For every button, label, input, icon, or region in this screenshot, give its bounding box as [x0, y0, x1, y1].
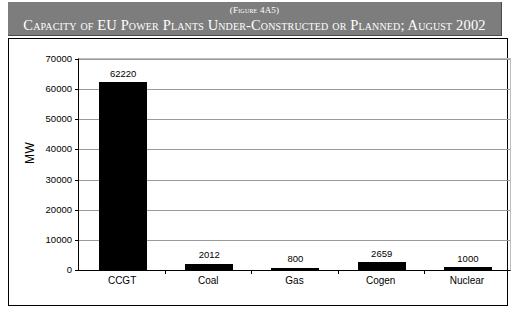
y-axis-tick-label: 0: [67, 265, 72, 275]
chart-title: Capacity of EU Power Plants Under-Constr…: [8, 16, 501, 34]
y-axis-tick-mark: [75, 240, 79, 241]
y-axis-tick-label: 50000: [46, 115, 72, 125]
x-axis-category-label: Coal: [198, 276, 219, 286]
bar-value-label: 2659: [371, 249, 392, 259]
bar[interactable]: [358, 262, 406, 270]
x-axis-category-label: CCGT: [108, 276, 136, 286]
x-axis-category-label: Nuclear: [450, 276, 484, 286]
bar-value-label: 62220: [110, 69, 136, 79]
y-axis-tick-mark: [75, 180, 79, 181]
x-axis-category-label: Cogen: [366, 276, 395, 286]
y-axis-tick-mark: [75, 149, 79, 150]
y-axis-tick-mark: [75, 119, 79, 120]
y-axis-tick-mark: [75, 59, 79, 60]
y-axis-tick-label: 40000: [46, 145, 72, 155]
y-axis-tick-label: 60000: [46, 84, 72, 94]
y-axis-tick-mark: [75, 210, 79, 211]
y-axis-tick-label: 10000: [46, 235, 72, 245]
chart-frame: MW 010000200003000040000500006000070000 …: [8, 38, 508, 306]
bar-group[interactable]: 1000: [425, 59, 511, 270]
bar-group[interactable]: 62220: [80, 59, 166, 270]
bar-series: 62220201280026591000: [80, 59, 511, 270]
chart-title-banner: (Figure 4A5) Capacity of EU Power Plants…: [8, 2, 502, 36]
bar-group[interactable]: 800: [252, 59, 338, 270]
bar-value-label: 800: [288, 254, 304, 264]
figure-container: (Figure 4A5) Capacity of EU Power Plants…: [0, 0, 520, 313]
bar-group[interactable]: 2012: [166, 59, 252, 270]
bar[interactable]: [185, 264, 233, 270]
bar-value-label: 2012: [199, 250, 220, 260]
y-axis-title: MW: [23, 142, 37, 164]
bar[interactable]: [99, 82, 147, 270]
figure-number-label: (Figure 4A5): [8, 2, 501, 16]
y-axis-tick-mark: [75, 270, 79, 271]
bar[interactable]: [444, 267, 492, 270]
y-axis-tick-mark: [75, 89, 79, 90]
x-axis-labels: CCGTCoalGasCogenNuclear: [79, 272, 510, 292]
bar-group[interactable]: 2659: [339, 59, 425, 270]
y-axis-tick-label: 70000: [46, 54, 72, 64]
bar-value-label: 1000: [457, 254, 478, 264]
plot-area: 010000200003000040000500006000070000 622…: [78, 58, 511, 271]
bar[interactable]: [271, 268, 319, 270]
x-axis-category-label: Gas: [285, 276, 303, 286]
y-axis-tick-label: 20000: [46, 205, 72, 215]
y-axis-tick-label: 30000: [46, 175, 72, 185]
